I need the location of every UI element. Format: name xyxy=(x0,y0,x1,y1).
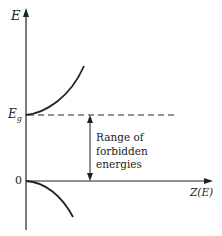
band-gap-diagram: E Eg 0 Z(E) Range of forbidden energies xyxy=(0,0,222,236)
forbidden-range-annotation: Range of forbidden energies xyxy=(96,131,176,172)
diagram-canvas xyxy=(0,0,222,236)
annotation-line-2: forbidden xyxy=(96,145,176,159)
gap-energy-label-main: E xyxy=(8,107,17,121)
y-axis-label: E xyxy=(11,9,21,22)
gap-energy-label-sub: g xyxy=(17,114,22,123)
arrow-up-icon xyxy=(87,115,93,123)
energy-axis-arrowhead-icon xyxy=(23,8,29,17)
zero-energy-label: 0 xyxy=(15,175,22,186)
annotation-line-3: energies xyxy=(96,158,176,172)
x-axis-label: Z(E) xyxy=(190,187,213,198)
valence-band-curve xyxy=(26,181,73,217)
density-axis-arrowhead-icon xyxy=(204,178,213,184)
annotation-line-1: Range of xyxy=(96,131,176,145)
gap-energy-label: Eg xyxy=(8,108,22,123)
conduction-band-curve xyxy=(26,66,84,115)
arrow-down-icon xyxy=(87,173,93,181)
